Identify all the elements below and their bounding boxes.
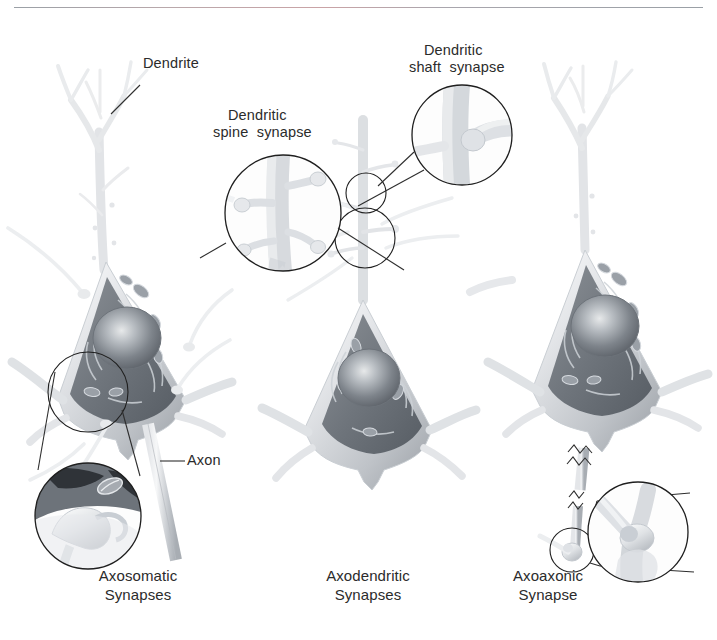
dendrite-tree-right — [544, 62, 632, 250]
label-axon: Axon — [187, 452, 221, 470]
label-dendritic-spine-synapse-line2: spine synapse — [213, 124, 312, 142]
caption-axosomatic: Axosomatic Synapses — [38, 566, 238, 604]
inset-dendritic-shaft-synapse — [412, 85, 512, 185]
nucleus-middle — [338, 349, 400, 407]
leader-line-spine-synapse-b — [200, 243, 226, 258]
label-dendritic-spine-synapse-line1: Dendritic — [228, 107, 287, 125]
neuron-artwork — [0, 0, 717, 640]
dendrite-tree-left — [58, 62, 147, 270]
label-dendritic-shaft-synapse-line1: Dendritic — [424, 42, 483, 60]
nucleus-right — [571, 295, 639, 357]
neuron-axodendritic — [200, 85, 512, 568]
label-dendritic-shaft-synapse-line2: shaft synapse — [409, 59, 505, 77]
nucleus-left — [93, 307, 161, 369]
dendrite-tree-middle — [334, 120, 392, 300]
leader-line-shaft-synapse-a — [378, 152, 414, 186]
inset-axosomatic — [35, 463, 141, 569]
label-dendrite: Dendrite — [143, 55, 199, 73]
neuron-axosomatic — [8, 62, 232, 569]
synapse-types-figure: Dendrite Axon Dendritic spine synapse De… — [0, 0, 717, 640]
caption-axodendritic: Axodendritic Synapses — [268, 566, 468, 604]
caption-axoaxonic: Axoaxonic Synapse — [448, 566, 648, 604]
inset-dendritic-spine-synapse — [210, 155, 348, 271]
